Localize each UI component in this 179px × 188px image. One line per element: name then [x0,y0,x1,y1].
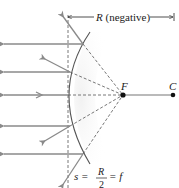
fraction-denominator: 2 [99,179,104,188]
reflected-parallel-rays [4,44,83,154]
concave-mirror-diagram: R (negative) F C s = R 2 = f [0,0,179,188]
fraction-numerator: R [97,166,104,177]
equation-s: s = [74,170,88,182]
center-label: C [169,80,177,92]
focal-point-F [120,92,125,97]
focal-point-label: F [120,80,128,92]
equation-f: = f [109,170,124,182]
radius-label: R (negative) [95,11,150,24]
center-of-curvature-C [171,93,176,98]
